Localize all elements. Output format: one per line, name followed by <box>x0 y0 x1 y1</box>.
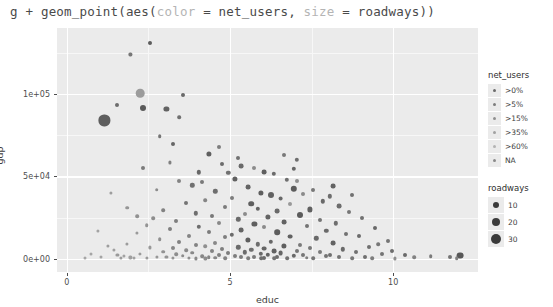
data-point <box>184 248 188 252</box>
x-tick-mark <box>230 273 231 276</box>
data-point <box>158 134 162 138</box>
data-point <box>178 115 182 119</box>
data-point <box>148 246 151 249</box>
gridline-horizontal <box>57 94 478 95</box>
data-point <box>223 205 227 209</box>
data-point <box>373 226 377 230</box>
data-point <box>262 256 266 260</box>
data-point <box>248 201 254 207</box>
data-point <box>246 185 251 190</box>
data-point <box>193 211 197 215</box>
legend-dot-icon <box>491 234 502 245</box>
code-arg-size: size <box>304 4 335 19</box>
data-point <box>204 198 208 202</box>
data-point <box>171 246 175 250</box>
data-point <box>210 214 214 218</box>
legend-dot-icon <box>493 159 496 162</box>
legend-roadways-title: roadways <box>488 183 553 193</box>
data-point <box>204 244 208 248</box>
data-point <box>291 254 295 258</box>
data-point <box>223 235 227 239</box>
data-point <box>181 254 185 258</box>
gridline-vertical <box>312 28 313 272</box>
data-point <box>330 184 335 189</box>
legend-item-roadways[interactable]: 20 <box>488 214 553 230</box>
data-point <box>295 249 299 253</box>
data-point <box>171 142 175 146</box>
data-point <box>305 224 309 228</box>
legend-label: 10 <box>508 201 518 210</box>
data-point <box>90 252 93 255</box>
data-point <box>298 243 302 247</box>
data-point <box>262 170 267 175</box>
data-point <box>207 255 211 259</box>
data-point <box>194 243 198 247</box>
data-point <box>174 219 178 223</box>
data-point <box>223 256 227 260</box>
legend-item-net-users[interactable]: >5% <box>488 98 553 111</box>
data-point <box>213 256 217 260</box>
gridline-horizontal <box>57 176 478 177</box>
data-point <box>140 105 146 111</box>
data-point <box>350 193 354 197</box>
data-point <box>168 227 172 231</box>
data-point <box>318 218 322 222</box>
data-point <box>190 183 194 187</box>
legend-item-roadways[interactable]: 30 <box>488 231 553 247</box>
legend-item-net-users[interactable]: >35% <box>488 126 553 139</box>
legend-label: >15% <box>505 114 528 123</box>
legend-key-swatch <box>488 112 501 125</box>
data-point <box>239 228 244 233</box>
data-point <box>161 208 165 212</box>
data-point <box>239 255 243 259</box>
data-point <box>197 224 201 228</box>
data-point <box>318 250 322 254</box>
data-point <box>135 232 138 235</box>
data-point <box>354 250 358 254</box>
data-point <box>370 256 374 260</box>
data-point <box>252 166 256 170</box>
legend-roadways: roadways 102030 <box>488 183 553 247</box>
legend-container: net_users >0%>5%>15%>35%>60%NA roadways … <box>488 70 553 248</box>
legend-item-roadways[interactable]: 10 <box>488 197 553 213</box>
data-point <box>344 232 348 236</box>
data-point <box>275 255 279 259</box>
legend-item-net-users[interactable]: NA <box>488 154 553 167</box>
legend-dot-icon <box>492 218 500 226</box>
legend-key-swatch <box>488 214 504 230</box>
y-tick-label: 1e+05 <box>6 89 50 98</box>
data-point <box>259 257 263 261</box>
legend-item-net-users[interactable]: >60% <box>488 140 553 153</box>
data-point <box>177 179 181 183</box>
data-point <box>269 240 273 244</box>
gridline-vertical <box>67 28 68 272</box>
data-point <box>265 214 270 219</box>
data-point <box>262 246 267 251</box>
legend-key-swatch <box>488 84 501 97</box>
legend-label: 20 <box>508 218 518 227</box>
data-point <box>308 246 312 250</box>
legend-label: >35% <box>505 128 528 137</box>
data-point <box>236 217 240 221</box>
data-point <box>191 251 195 255</box>
legend-label: NA <box>505 156 516 165</box>
legend-dot-icon <box>493 117 496 120</box>
data-point <box>295 179 299 183</box>
legend-dot-icon <box>493 131 496 134</box>
data-point <box>285 256 289 260</box>
legend-item-net-users[interactable]: >0% <box>488 84 553 97</box>
data-point <box>282 153 286 157</box>
data-point <box>106 244 109 247</box>
data-point <box>232 176 237 181</box>
data-point <box>200 180 204 184</box>
data-point <box>340 247 344 251</box>
data-point <box>403 253 407 257</box>
data-point <box>220 247 224 251</box>
y-tick-label: 0e+00 <box>6 254 50 263</box>
data-point <box>249 248 253 252</box>
legend-item-net-users[interactable]: >15% <box>488 112 553 125</box>
data-point <box>113 248 116 251</box>
data-point <box>281 243 286 248</box>
data-point <box>206 152 211 157</box>
data-point <box>288 234 293 239</box>
